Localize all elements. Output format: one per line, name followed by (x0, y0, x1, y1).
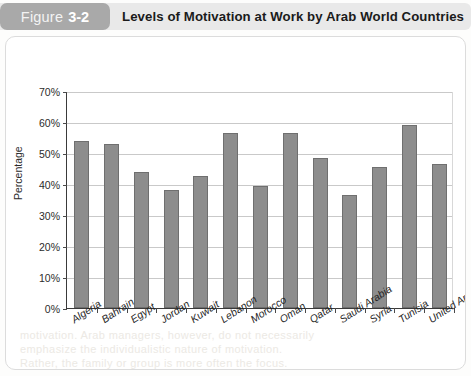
chart-card: Percentage 0%10%20%30%40%50%60%70% Alger… (5, 36, 466, 370)
gridline (67, 154, 452, 155)
y-axis-tick (63, 247, 67, 248)
y-axis-label: 20% (39, 241, 60, 253)
bleed-line-3: Rather, the family or group is more ofte… (20, 357, 288, 369)
gridline (67, 123, 452, 124)
y-axis-label: 60% (39, 117, 60, 129)
y-axis-tick (63, 216, 67, 217)
y-axis-tick (63, 309, 67, 310)
figure-label: Figure (21, 9, 63, 25)
y-axis-tick (63, 123, 67, 124)
gridline (67, 92, 452, 93)
x-axis-tick (394, 308, 395, 313)
bar (283, 133, 298, 308)
y-axis-tick (63, 92, 67, 93)
bleed-line-1: motivation. Arab managers, however, do n… (20, 329, 314, 341)
y-axis-tick (63, 154, 67, 155)
bar (193, 176, 208, 308)
y-axis-label: 0% (45, 303, 60, 315)
figure-title: Levels of Motivation at Work by Arab Wor… (122, 3, 464, 30)
y-axis-tick (63, 185, 67, 186)
figure-number: 3-2 (68, 9, 89, 25)
bar (104, 144, 119, 308)
bar (164, 190, 179, 308)
bar (342, 195, 357, 308)
plot-area: 0%10%20%30%40%50%60%70% (66, 92, 453, 309)
bar (402, 125, 417, 308)
figure-container: Figure 3-2 Levels of Motivation at Work … (0, 0, 471, 376)
figure-number-tab: Figure 3-2 (0, 3, 110, 30)
bar (432, 164, 447, 308)
bar (134, 172, 149, 308)
y-axis-title: Percentage (12, 146, 24, 200)
bar (223, 133, 238, 308)
y-axis-tick (63, 278, 67, 279)
y-axis-label: 70% (39, 86, 60, 98)
y-axis-label: 30% (39, 210, 60, 222)
bleed-line-2: emphasize the individualistic nature of … (20, 343, 283, 355)
bar (253, 186, 268, 308)
y-axis-label: 40% (39, 179, 60, 191)
bar (313, 158, 328, 308)
y-axis-label: 10% (39, 272, 60, 284)
bar (74, 141, 89, 308)
y-axis-label: 50% (39, 148, 60, 160)
